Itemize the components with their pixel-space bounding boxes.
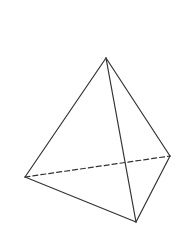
edge-bottom-right xyxy=(136,156,170,222)
edge-left-right-hidden xyxy=(25,156,170,177)
edge-top-bottom xyxy=(106,58,136,222)
edge-left-bottom xyxy=(25,177,136,222)
diagram-canvas xyxy=(0,0,184,235)
tetrahedron-figure xyxy=(0,0,184,235)
edge-top-left xyxy=(25,58,106,177)
edge-top-right xyxy=(106,58,170,156)
